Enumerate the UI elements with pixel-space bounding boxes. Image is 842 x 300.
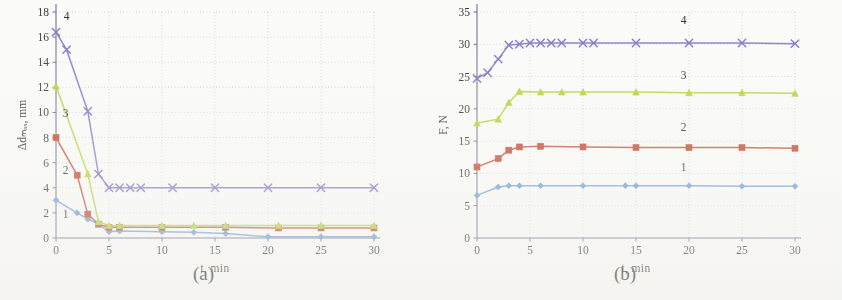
data-point-marker [474, 164, 480, 170]
series-annotations: 1234 [63, 10, 70, 220]
chart-a-svg: 024681012141618051015202530t, minΔdₘₐₓ, … [0, 0, 421, 300]
series-number-label: 3 [681, 69, 687, 81]
x-axis-tick-label: 30 [789, 244, 801, 256]
axes [53, 4, 381, 242]
data-point-marker [223, 231, 229, 237]
data-point-marker [686, 183, 692, 189]
data-point-marker [622, 183, 628, 189]
x-axis-tick-label: 20 [683, 244, 695, 256]
data-point-marker [739, 183, 745, 189]
series-number-label: 2 [681, 121, 687, 133]
data-point-marker [53, 83, 60, 89]
series-number-label: 1 [63, 208, 69, 220]
y-axis-tick-label: 18 [38, 6, 50, 18]
series-number-label: 4 [681, 14, 687, 26]
series-number-label: 4 [64, 10, 70, 22]
series-3 [53, 83, 378, 229]
data-point-marker [265, 234, 271, 240]
data-point-marker [371, 234, 377, 240]
data-point-marker [474, 192, 480, 198]
y-axis-tick-label: 14 [38, 56, 50, 68]
series-2 [53, 135, 377, 231]
series-number-label: 2 [63, 164, 69, 176]
data-point-marker [191, 229, 197, 235]
data-point-marker [516, 183, 522, 189]
y-axis-tick-label: 35 [459, 6, 471, 18]
data-point-marker [318, 234, 324, 240]
y-axis-tick-label: 8 [43, 132, 49, 144]
data-point-marker [495, 156, 501, 162]
y-axis-label: Δdₘₐₓ, mm [16, 100, 29, 150]
x-axis-tick-label: 0 [474, 244, 480, 256]
y-axis-tick-label: 4 [43, 182, 49, 194]
y-axis-tick-label: 15 [459, 135, 471, 147]
series-line [56, 32, 374, 188]
data-point-marker [506, 183, 512, 189]
data-point-marker [495, 184, 501, 190]
data-point-marker [739, 145, 745, 151]
data-point-marker [538, 143, 544, 149]
data-point-marker [74, 172, 80, 178]
y-axis-tick-label: 0 [43, 232, 49, 244]
y-axis-tick-label: 12 [38, 81, 50, 93]
y-axis-tick-label: 0 [464, 232, 470, 244]
series-4 [52, 28, 377, 191]
x-axis-tick-label: 0 [53, 244, 59, 256]
y-axis-tick-label: 16 [38, 31, 50, 43]
y-axis-tick-label: 25 [459, 71, 471, 83]
x-axis-tick-label: 5 [527, 244, 533, 256]
y-axis-tick-label: 6 [43, 157, 49, 169]
x-axis-tick-label: 30 [368, 244, 380, 256]
series-line [56, 200, 374, 236]
panel-a-caption: (a) [193, 263, 214, 285]
series-3 [474, 88, 799, 126]
chart-panel-a: 024681012141618051015202530t, minΔdₘₐₓ, … [0, 0, 421, 300]
data-point-marker [686, 145, 692, 151]
data-point-marker [538, 183, 544, 189]
x-axis-tick-label: 10 [156, 244, 168, 256]
y-axis-tick-label: 30 [459, 38, 471, 50]
x-axis-tick-label: 20 [262, 244, 274, 256]
panel-b-caption: (b) [614, 263, 636, 285]
data-point-marker [792, 183, 798, 189]
data-point-marker [633, 145, 639, 151]
x-axis-tick-label: 10 [577, 244, 589, 256]
data-point-marker [506, 147, 512, 153]
gridlines [477, 12, 795, 238]
y-axis-tick-label: 20 [459, 103, 471, 115]
chart-panel-b: 05101520253035051015202530t, minF, N1234… [421, 0, 842, 300]
y-axis-tick-label: 5 [464, 200, 470, 212]
data-point-marker [633, 183, 639, 189]
series-number-label: 3 [63, 107, 69, 119]
x-axis-tick-label: 15 [630, 244, 642, 256]
data-point-marker [580, 183, 586, 189]
data-point-marker [580, 144, 586, 150]
series-1 [474, 183, 798, 199]
y-axis-label: F, N [437, 115, 450, 135]
x-axis-tick-label: 15 [209, 244, 221, 256]
data-point-marker [792, 145, 798, 151]
data-point-marker [516, 144, 522, 150]
gridlines [56, 12, 374, 238]
figure-container: 024681012141618051015202530t, minΔdₘₐₓ, … [0, 0, 842, 300]
y-axis-tick-label: 2 [43, 207, 49, 219]
x-axis-tick-label: 25 [315, 244, 327, 256]
data-point-marker [85, 211, 91, 217]
chart-b-svg: 05101520253035051015202530t, minF, N1234 [421, 0, 842, 300]
y-axis-tick-label: 10 [38, 106, 50, 118]
x-axis-tick-label: 25 [736, 244, 748, 256]
y-axis-tick-label: 10 [459, 167, 471, 179]
data-point-marker [53, 135, 59, 141]
x-axis-tick-label: 5 [106, 244, 112, 256]
series-number-label: 1 [681, 161, 687, 173]
data-point-marker [85, 171, 92, 177]
series-1 [53, 197, 377, 239]
